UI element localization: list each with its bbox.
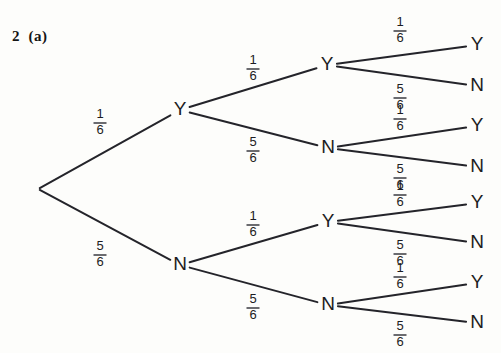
branch-probability-L3-YYY: 16 bbox=[394, 14, 407, 45]
node-label-L2-YY: Y bbox=[321, 53, 334, 74]
node-label-L3-YYN: N bbox=[470, 74, 484, 95]
fraction-numerator: 1 bbox=[96, 106, 103, 121]
node-label-L3-NYN: N bbox=[470, 231, 484, 252]
branch-probability-L2-NY: 16 bbox=[247, 208, 260, 239]
node-label-L3-NYY: Y bbox=[471, 191, 484, 212]
fraction-denominator: 6 bbox=[396, 276, 403, 291]
branch-probability-L3-NNN: 56 bbox=[394, 318, 407, 349]
branch-probability-L3-NNY: 16 bbox=[394, 260, 407, 291]
branch-probability-L2-YN: 56 bbox=[247, 134, 260, 165]
node-label-L1-Y: Y bbox=[174, 98, 187, 119]
fraction-numerator: 5 bbox=[396, 81, 403, 96]
node-label-L2-YN: N bbox=[321, 136, 335, 157]
node-label-L2-NN: N bbox=[321, 293, 335, 314]
fraction-numerator: 1 bbox=[396, 260, 403, 275]
fraction-denominator: 6 bbox=[96, 122, 103, 137]
fraction-numerator: 5 bbox=[249, 134, 256, 149]
fraction-denominator: 6 bbox=[249, 307, 256, 322]
branch-line-L3-YYY bbox=[337, 46, 466, 63]
branch-probability-L3-YNY: 16 bbox=[394, 102, 407, 133]
fraction-denominator: 6 bbox=[396, 30, 403, 45]
fraction-denominator: 6 bbox=[249, 68, 256, 83]
fraction-numerator: 5 bbox=[249, 291, 256, 306]
node-label-group: YNYNYNYNYNYNYN bbox=[173, 33, 484, 332]
node-label-L3-YYY: Y bbox=[471, 33, 484, 54]
fraction-denominator: 6 bbox=[396, 334, 403, 349]
branch-line-L1-Y bbox=[40, 115, 171, 188]
node-label-L3-YNN: N bbox=[470, 155, 484, 176]
fraction-numerator: 1 bbox=[249, 52, 256, 67]
fraction-denominator: 6 bbox=[249, 224, 256, 239]
branch-probability-L2-NN: 56 bbox=[247, 291, 260, 322]
branch-probability-L1-Y: 16 bbox=[94, 106, 107, 137]
fraction-denominator: 6 bbox=[249, 150, 256, 165]
fraction-numerator: 1 bbox=[249, 208, 256, 223]
node-label-L3-NNY: Y bbox=[471, 271, 484, 292]
fraction-denominator: 6 bbox=[396, 118, 403, 133]
fraction-numerator: 1 bbox=[396, 14, 403, 29]
fraction-numerator: 1 bbox=[396, 178, 403, 193]
fraction-denominator: 6 bbox=[396, 194, 403, 209]
fraction-numerator: 5 bbox=[396, 318, 403, 333]
fraction-numerator: 1 bbox=[396, 102, 403, 117]
fraction-numerator: 5 bbox=[396, 161, 403, 176]
node-label-L2-NY: Y bbox=[322, 210, 335, 231]
fraction-numerator: 5 bbox=[396, 237, 403, 252]
branch-probability-L1-N: 56 bbox=[94, 238, 107, 269]
probability-tree-diagram: YNYNYNYNYNYNYN 1656165616561656165616561… bbox=[0, 0, 501, 353]
branch-probability-group: 1656165616561656165616561656 bbox=[94, 14, 407, 349]
node-label-L3-NNN: N bbox=[470, 311, 484, 332]
tree-diagram-page: 2 (a) YNYNYNYNYNYNYN 1656165616561656165… bbox=[0, 0, 501, 353]
node-label-L3-YNY: Y bbox=[471, 114, 484, 135]
fraction-denominator: 6 bbox=[96, 254, 103, 269]
node-label-L1-N: N bbox=[173, 253, 187, 274]
branch-probability-L2-YY: 16 bbox=[247, 52, 260, 83]
branch-line-L1-N bbox=[40, 190, 171, 260]
fraction-numerator: 5 bbox=[96, 238, 103, 253]
branch-probability-L3-NYY: 16 bbox=[394, 178, 407, 209]
